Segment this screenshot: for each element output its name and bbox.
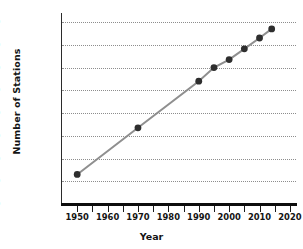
line-chart: Number of Stations 0200040006000800010,0…: [0, 0, 303, 249]
x-axis-title: Year: [0, 231, 303, 242]
data-point: 1970: 6700: [135, 124, 142, 131]
data-series: 1950: 26001970: 67001990: 108001995: 120…: [62, 13, 296, 204]
data-point: 1950: 2600: [74, 171, 81, 178]
data-point: 2000: 12700: [226, 56, 233, 63]
y-axis-title: Number of Stations: [11, 32, 22, 172]
data-point: 1990: 10800: [195, 78, 202, 85]
data-point: 1995: 12000: [211, 64, 218, 71]
x-axis-tick-label: 2020: [268, 212, 303, 222]
data-point: 2014: 15400: [268, 26, 275, 33]
data-point: 2005: 13650: [241, 45, 248, 52]
data-point: 2010: 14600: [256, 35, 263, 42]
